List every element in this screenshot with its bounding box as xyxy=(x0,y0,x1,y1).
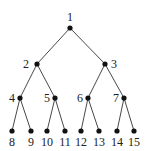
tree-node-3 xyxy=(102,61,107,66)
tree-node-label: 2 xyxy=(23,57,29,71)
tree-node-7 xyxy=(121,95,126,100)
tree-node-label: 12 xyxy=(75,135,87,149)
tree-node-label: 10 xyxy=(41,135,53,149)
tree-node-label: 6 xyxy=(77,91,83,105)
tree-node-label: 11 xyxy=(59,135,71,149)
tree-node-label: 3 xyxy=(111,57,117,71)
tree-node-9 xyxy=(28,128,33,133)
tree-edge-7-15 xyxy=(124,98,134,131)
tree-node-label: 15 xyxy=(128,135,140,149)
tree-labels: 123456789101112131415 xyxy=(9,10,140,149)
tree-node-10 xyxy=(44,128,49,133)
tree-node-label: 9 xyxy=(28,135,34,149)
tree-node-label: 4 xyxy=(9,91,15,105)
tree-node-label: 13 xyxy=(93,135,105,149)
tree-node-8 xyxy=(9,128,14,133)
tree-edge-3-6 xyxy=(88,64,105,98)
tree-edge-1-3 xyxy=(70,28,105,64)
tree-node-15 xyxy=(131,128,136,133)
tree-node-1 xyxy=(67,25,72,30)
binary-tree-diagram: 123456789101112131415 xyxy=(0,0,147,151)
tree-node-5 xyxy=(52,95,57,100)
tree-edge-6-13 xyxy=(88,98,99,131)
tree-edge-4-9 xyxy=(20,98,31,131)
tree-node-label: 5 xyxy=(44,91,50,105)
tree-edge-5-11 xyxy=(55,98,65,131)
tree-node-12 xyxy=(78,128,83,133)
tree-node-label: 7 xyxy=(113,91,119,105)
tree-edges xyxy=(12,28,134,131)
tree-node-14 xyxy=(114,128,119,133)
tree-node-6 xyxy=(85,95,90,100)
tree-nodes xyxy=(9,25,136,133)
tree-edge-1-2 xyxy=(37,28,70,64)
tree-node-label: 8 xyxy=(9,135,15,149)
tree-node-label: 14 xyxy=(111,135,123,149)
tree-node-2 xyxy=(34,61,39,66)
tree-node-label: 1 xyxy=(67,10,73,24)
tree-node-4 xyxy=(17,95,22,100)
tree-node-11 xyxy=(62,128,67,133)
tree-node-13 xyxy=(96,128,101,133)
